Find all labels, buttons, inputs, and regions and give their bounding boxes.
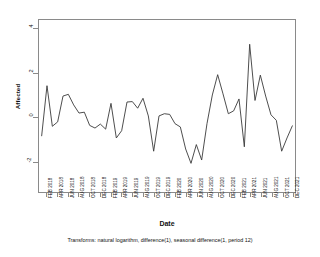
y-tick-label: 2 bbox=[16, 68, 32, 74]
x-tick-mark bbox=[68, 193, 69, 197]
x-tick-mark bbox=[175, 193, 176, 197]
x-tick-mark bbox=[154, 193, 155, 197]
chart-container: Affected 420-2 FEB 2018APR 2018JUN 2018A… bbox=[0, 0, 320, 257]
x-tick-mark bbox=[283, 193, 284, 197]
x-tick-mark bbox=[57, 193, 58, 197]
x-tick-mark bbox=[186, 193, 187, 197]
x-tick-mark bbox=[100, 193, 101, 197]
x-tick-mark bbox=[111, 193, 112, 197]
x-tick-mark bbox=[143, 193, 144, 197]
y-tick-label: -2 bbox=[16, 157, 32, 163]
x-tick-mark bbox=[197, 193, 198, 197]
x-tick-mark bbox=[272, 193, 273, 197]
y-tick-label: 4 bbox=[16, 23, 32, 29]
plot-area bbox=[38, 19, 296, 193]
x-tick-mark bbox=[218, 193, 219, 197]
series-polyline bbox=[42, 44, 293, 163]
x-tick-mark bbox=[46, 193, 47, 197]
y-axis-title-text: Affected bbox=[15, 84, 22, 110]
y-tick-label: 0 bbox=[16, 112, 32, 118]
series-line-affected bbox=[39, 20, 295, 192]
x-tick-mark bbox=[132, 193, 133, 197]
transforms-footnote: Transforms: natural logarithm, differenc… bbox=[0, 237, 320, 243]
x-tick-mark bbox=[89, 193, 90, 197]
y-axis-title: Affected bbox=[8, 0, 28, 193]
x-tick-mark bbox=[261, 193, 262, 197]
x-tick-mark bbox=[229, 193, 230, 197]
x-tick-mark bbox=[240, 193, 241, 197]
x-axis-title: Date bbox=[38, 220, 296, 227]
